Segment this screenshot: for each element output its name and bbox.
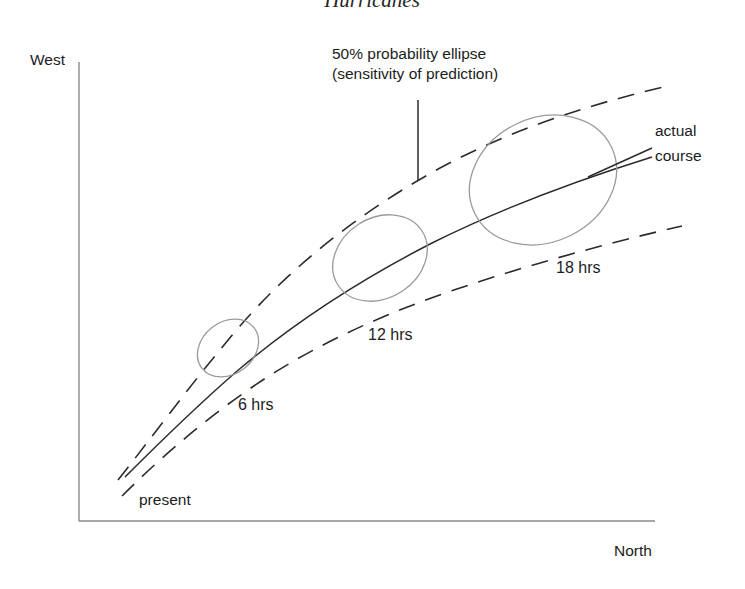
actual-course-label-line1: actual bbox=[655, 122, 696, 139]
figure-title: Hurricanes bbox=[323, 0, 420, 12]
hurricane-forecast-diagram: Hurricanes West North 50% probability el… bbox=[0, 0, 745, 589]
ellipse-annotation-line2: (sensitivity of prediction) bbox=[332, 65, 498, 82]
x-axis-label: North bbox=[614, 542, 652, 559]
time-label-18hrs: 18 hrs bbox=[556, 259, 600, 276]
actual-course-label-line2: course bbox=[655, 147, 702, 164]
time-label-6hrs: 6 hrs bbox=[238, 396, 274, 413]
present-label: present bbox=[139, 491, 191, 508]
y-axis-label: West bbox=[30, 51, 66, 68]
ellipse-annotation-line1: 50% probability ellipse bbox=[332, 45, 486, 62]
time-label-12hrs: 12 hrs bbox=[368, 326, 412, 343]
canvas-background bbox=[0, 0, 745, 589]
